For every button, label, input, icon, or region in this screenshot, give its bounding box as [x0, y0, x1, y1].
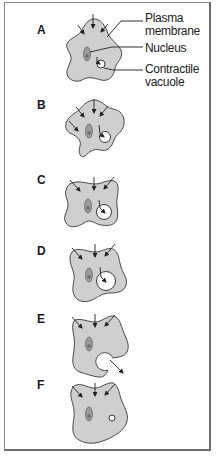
label-plasma-membrane-line2: membrane [145, 24, 201, 38]
contractile-vacuole [100, 132, 111, 143]
step-f: F [37, 378, 127, 443]
contractile-vacuole-diagram: A Plasma membrane Nucleus Contractile va… [0, 0, 217, 456]
step-a: A Plasma membrane Nucleus Contractile va… [37, 11, 201, 89]
label-contractile-vacuole-line2: vacuole [145, 75, 185, 89]
nucleus [84, 47, 91, 61]
label-plasma-membrane: Plasma [145, 11, 184, 25]
step-label-d: D [37, 244, 46, 258]
contractile-vacuole [97, 60, 105, 68]
step-label-e: E [37, 312, 45, 326]
nucleolus [87, 344, 91, 348]
step-label-f: F [37, 378, 44, 392]
nucleolus [87, 414, 91, 418]
cell-membrane [73, 316, 129, 377]
step-label-b: B [37, 98, 46, 112]
nucleolus [86, 206, 90, 210]
leader-line-plasma-membrane [107, 21, 143, 37]
nucleolus [85, 54, 89, 58]
cell-membrane [66, 100, 125, 157]
label-nucleus: Nucleus [145, 41, 187, 55]
nucleus [86, 407, 93, 421]
nucleus [86, 268, 93, 282]
water-expulsion-arrow-icon [110, 360, 123, 373]
nucleolus [87, 275, 91, 279]
step-d: D [37, 244, 126, 302]
step-label-a: A [37, 23, 46, 37]
nucleus [86, 124, 93, 138]
contractile-vacuole [109, 415, 115, 421]
step-b: B [37, 98, 124, 157]
step-c: C [37, 173, 118, 227]
nucleus [85, 199, 92, 213]
cell-membrane [71, 383, 128, 443]
step-e: E [37, 312, 128, 377]
nucleolus [87, 131, 91, 135]
label-contractile-vacuole: Contractile [145, 62, 200, 76]
contractile-vacuole [97, 272, 116, 291]
cell-membrane [67, 19, 122, 81]
step-label-c: C [37, 173, 46, 187]
nucleus [86, 337, 93, 351]
